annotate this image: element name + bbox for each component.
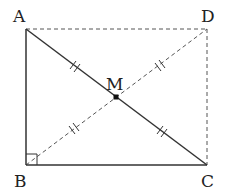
diagram-canvas: A D B C M	[0, 0, 235, 196]
midpoint-M-dot	[114, 95, 119, 100]
label-A: A	[12, 6, 26, 26]
label-C: C	[201, 171, 214, 191]
tick-marks-MD	[155, 60, 165, 71]
geometry-diagram: A D B C M	[0, 0, 235, 196]
label-B: B	[14, 171, 27, 191]
tick-marks-BM	[69, 123, 79, 134]
label-M: M	[106, 74, 123, 94]
label-D: D	[201, 6, 215, 26]
